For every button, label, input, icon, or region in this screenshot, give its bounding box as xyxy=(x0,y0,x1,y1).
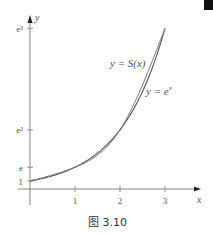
x-tick-label: 2 xyxy=(118,196,123,206)
curve-spline xyxy=(30,28,165,181)
y-tick-label: 1 xyxy=(19,177,24,187)
x-tick-label: 3 xyxy=(163,196,168,206)
corner-mark xyxy=(204,0,213,10)
figure-caption: 图 3.10 xyxy=(0,213,213,229)
spline-curve-label: y = S(x) xyxy=(109,57,146,70)
chart-figure: x y 123 1ee²e³ y = S(x) y = ex xyxy=(0,0,213,236)
y-axis-arrow-icon xyxy=(28,15,33,23)
curve-exp xyxy=(30,28,165,181)
x-axis-arrow-icon xyxy=(194,187,201,192)
x-tick-label: 1 xyxy=(73,196,78,206)
exp-label-exponent: x xyxy=(168,84,173,92)
y-tick-label: e xyxy=(19,163,23,173)
y-axis-label: y xyxy=(34,12,40,23)
exp-label-base: y = e xyxy=(145,85,169,97)
y-tick-label: e³ xyxy=(16,24,23,34)
x-axis-label: x xyxy=(196,194,202,205)
y-ticks: 1ee²e³ xyxy=(16,24,33,187)
y-tick-label: e² xyxy=(16,125,23,135)
exp-curve-label: y = ex xyxy=(145,84,173,97)
